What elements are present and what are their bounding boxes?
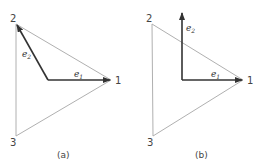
caption-a: (a) [57, 150, 70, 160]
e1-label-b: e1 [211, 69, 220, 80]
vertex-3-label-a: 3 [10, 137, 16, 148]
e1-label-a: e1 [74, 69, 83, 80]
vertex-3-label-b: 3 [147, 137, 153, 148]
vertex-2-label-b: 2 [146, 13, 152, 24]
e2-label-a: e2 [22, 49, 31, 60]
diagram-canvas: 1 2 3 e1 e2 (a) 1 2 3 e1 e2 (b) [0, 0, 265, 161]
vertex-2-label-a: 2 [10, 13, 16, 24]
vertex-1-label-a: 1 [115, 75, 121, 86]
vertex-1-label-b: 1 [247, 75, 253, 86]
e2-label-b: e2 [186, 23, 195, 34]
panel-a: 1 2 3 e1 e2 (a) [10, 13, 121, 160]
caption-b: (b) [195, 150, 208, 160]
panel-b: 1 2 3 e1 e2 (b) [146, 13, 253, 160]
